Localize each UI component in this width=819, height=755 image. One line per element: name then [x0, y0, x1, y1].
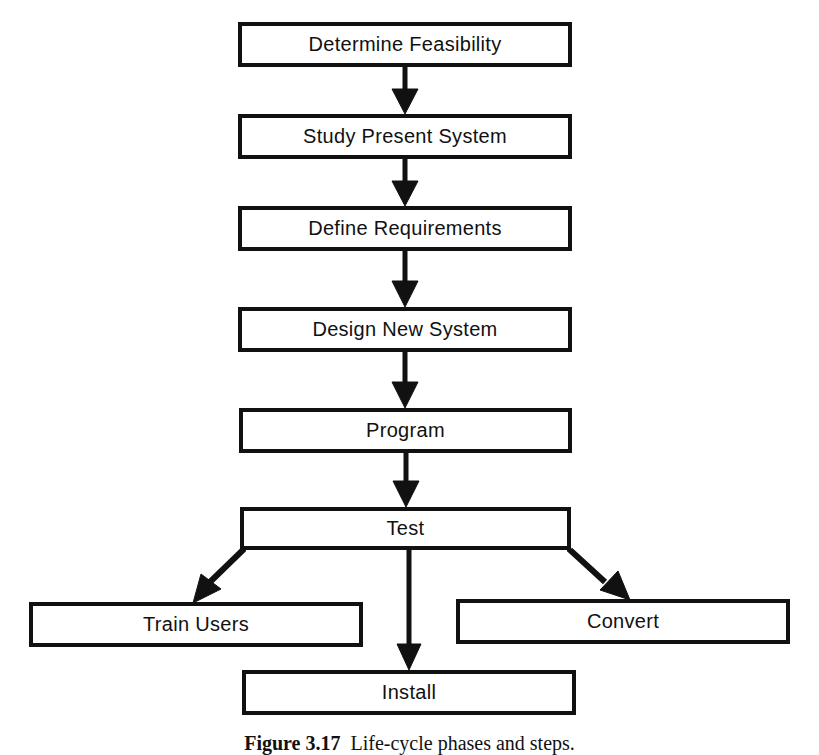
node-train-users: Train Users	[29, 602, 363, 647]
node-label: Design New System	[312, 318, 497, 341]
node-label: Study Present System	[303, 125, 507, 148]
node-study-present-system: Study Present System	[238, 114, 572, 159]
arrow-feasibility-to-study	[392, 66, 418, 114]
arrow-requirements-to-design	[392, 250, 418, 307]
node-label: Determine Feasibility	[308, 33, 501, 56]
node-label: Test	[387, 517, 425, 540]
node-label: Train Users	[143, 613, 249, 636]
arrow-program-to-test	[393, 452, 419, 507]
arrow-study-to-requirements	[392, 158, 418, 206]
node-program: Program	[239, 408, 572, 453]
node-test: Test	[240, 507, 571, 550]
arrow-test-to-install	[397, 549, 421, 670]
node-convert: Convert	[456, 599, 790, 644]
node-label: Install	[382, 681, 436, 704]
node-label: Program	[366, 419, 445, 442]
node-determine-feasibility: Determine Feasibility	[238, 22, 572, 67]
node-label: Define Requirements	[308, 217, 502, 240]
arrow-test-to-convert	[570, 549, 630, 600]
node-design-new-system: Design New System	[238, 307, 572, 352]
node-label: Convert	[587, 610, 659, 633]
figure-number: Figure 3.17	[244, 732, 340, 754]
caption-text: Life-cycle phases and steps.	[350, 732, 574, 754]
arrow-design-to-program	[392, 351, 418, 408]
arrow-test-to-train-users	[193, 549, 243, 603]
node-install: Install	[242, 670, 576, 715]
figure-caption: Figure 3.17Life-cycle phases and steps.	[0, 732, 819, 755]
node-define-requirements: Define Requirements	[238, 206, 572, 251]
